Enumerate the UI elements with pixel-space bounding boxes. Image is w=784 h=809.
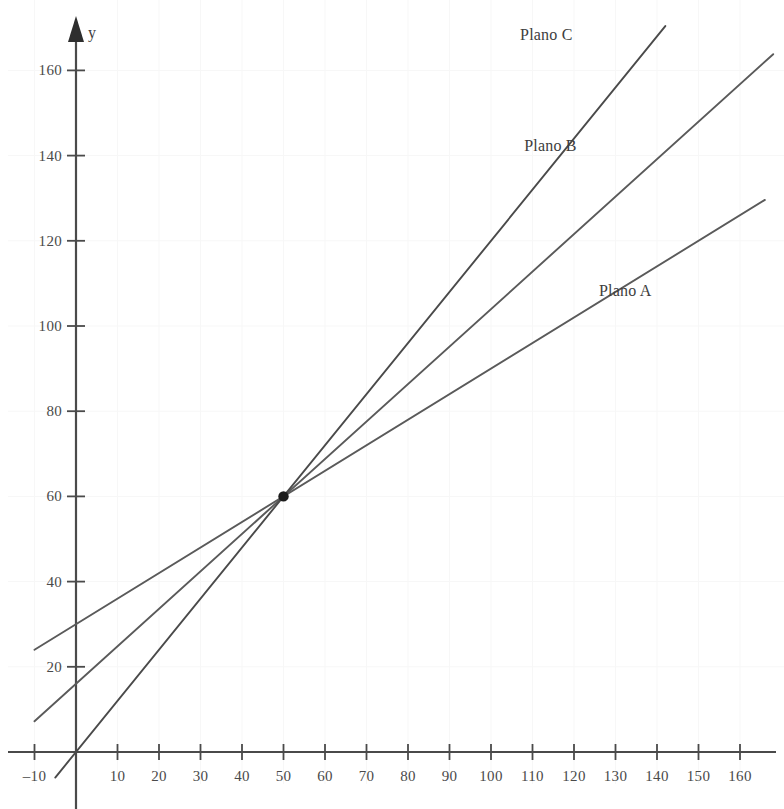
x-tick-label: 60: [317, 768, 333, 785]
intersection-marker: [278, 491, 288, 501]
x-tick-label: 110: [521, 768, 544, 785]
y-tick-label: 20: [46, 658, 62, 675]
axis-lines: [8, 16, 776, 809]
x-tick-label: 40: [234, 768, 250, 785]
x-tick-label: 130: [604, 768, 627, 785]
x-tick-label: –10: [23, 768, 46, 785]
series-line-1: [35, 200, 765, 650]
data-lines: [35, 26, 774, 777]
y-tick-label: 140: [39, 147, 62, 164]
series-line-2: [35, 54, 774, 721]
x-tick-label: 30: [193, 768, 209, 785]
y-tick-label: 80: [46, 403, 62, 420]
y-tick-label: 100: [39, 318, 62, 335]
x-tick-label: 160: [728, 768, 751, 785]
x-tick-label: 50: [276, 768, 292, 785]
gridlines: [8, 0, 784, 784]
y-tick-label: 60: [46, 488, 62, 505]
chart-canvas: –101020304050607080901001101201301401501…: [0, 0, 784, 809]
axis-ticks: [35, 70, 741, 760]
y-tick-label: 160: [39, 62, 62, 79]
x-tick-label: 120: [562, 768, 585, 785]
x-tick-label: 10: [110, 768, 126, 785]
series-label-2: Plano B: [524, 137, 577, 155]
x-tick-label: 90: [442, 768, 458, 785]
x-tick-label: 140: [645, 768, 668, 785]
x-tick-label: 80: [400, 768, 416, 785]
x-tick-label: 70: [359, 768, 375, 785]
y-tick-label: 40: [46, 573, 62, 590]
intersection-dot: [278, 491, 288, 501]
plot-svg: [0, 0, 784, 809]
x-tick-label: 100: [479, 768, 502, 785]
series-label-1: Plano A: [599, 282, 652, 300]
x-tick-label: 150: [687, 768, 710, 785]
y-tick-label: 120: [39, 232, 62, 249]
series-label-3: Plano C: [520, 26, 573, 44]
y-axis-arrow-icon: [68, 16, 84, 42]
x-tick-label: 20: [151, 768, 167, 785]
y-axis-title: y: [88, 24, 96, 42]
